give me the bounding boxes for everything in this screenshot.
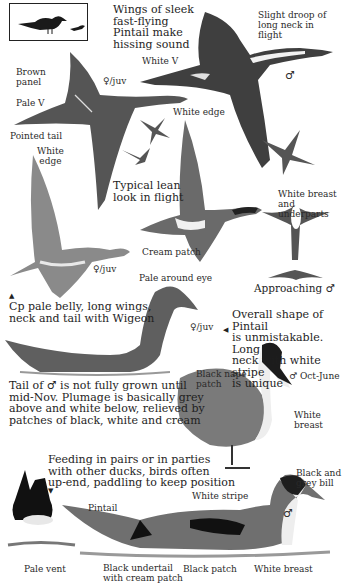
caption-tail-plumage: Tail of ♂ is not fully grown until mid-N… xyxy=(9,380,205,426)
label-cream-patch: Cream patch xyxy=(142,247,201,257)
pointer-triangle-icon: ▼ xyxy=(48,487,53,495)
label-white-stripe: White stripe xyxy=(192,491,248,501)
pointer-triangle-icon: ▲ xyxy=(9,292,14,300)
label-female-juv-3: ♀/juv xyxy=(190,322,213,332)
label-pintail: Pintail xyxy=(88,503,117,513)
label-male-1: ♂ xyxy=(285,71,295,81)
label-male-season: ♂ Oct-June xyxy=(289,371,340,381)
female-juv-flight-bird-icon xyxy=(10,155,130,298)
label-female-juv-2: ♀/juv xyxy=(93,264,116,274)
label-white-edge-1: White edge xyxy=(173,107,225,117)
caption-neck-droop: Slight droop of long neck in flight xyxy=(258,10,326,40)
caption-typical-lean: Typical lean look in flight xyxy=(113,180,183,203)
label-brown-panel: Brown panel xyxy=(16,67,46,87)
label-white-v: White V xyxy=(142,56,178,66)
caption-compare-wigeon: Cp pale belly, long wings, neck and tail… xyxy=(9,301,154,324)
label-black-undertail: Black undertail with cream patch xyxy=(103,563,183,583)
label-black-patch: Black patch xyxy=(183,564,237,574)
label-female-juv-1: ♀/juv xyxy=(103,76,126,86)
label-white-breast-2: White breast xyxy=(254,564,313,574)
label-white-edge-2: White edge xyxy=(37,146,64,166)
label-male-2: ♂ xyxy=(283,509,293,519)
label-pointed-tail: Pointed tail xyxy=(10,131,62,141)
caption-wings-hissing: Wings of sleek fast-flying Pintail make … xyxy=(113,4,194,50)
label-pale-v: Pale V xyxy=(16,98,45,108)
label-pale-vent: Pale vent xyxy=(24,564,66,574)
caption-feeding: Feeding in pairs or in parties with othe… xyxy=(48,454,235,489)
pointer-triangle-icon: ◀ xyxy=(223,326,228,334)
label-white-breast-1: White breast xyxy=(294,410,323,430)
caption-white-underparts: White breast and underparts xyxy=(278,189,346,219)
label-black-grey-bill: Black and grey bill xyxy=(296,468,341,488)
label-black-nape: Black nape patch xyxy=(196,369,246,389)
caption-approaching: Approaching ♂ xyxy=(254,283,335,295)
label-pale-around-eye: Pale around eye xyxy=(139,273,212,283)
